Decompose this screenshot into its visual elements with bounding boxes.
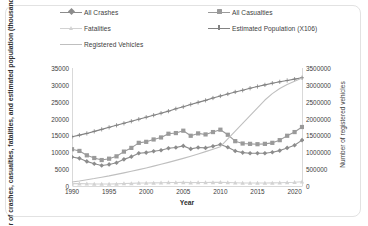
data-point (241, 88, 245, 92)
x-axis-ticks: 1990199520002005201020152020 (72, 188, 302, 200)
data-point (263, 142, 267, 146)
x-tick-5: 2015 (250, 188, 264, 195)
data-point (99, 163, 104, 168)
y-tick-left-7: 35000 (51, 65, 69, 72)
data-point (203, 98, 207, 102)
data-point (233, 139, 237, 143)
data-point (137, 141, 141, 145)
data-point (159, 148, 164, 153)
data-point (240, 150, 245, 155)
data-point (129, 119, 133, 123)
legend-marker-icon (60, 8, 82, 16)
data-point (211, 130, 215, 134)
data-point (144, 140, 148, 144)
data-point (77, 133, 81, 137)
data-point (189, 134, 193, 138)
data-point (174, 107, 178, 111)
legend-item-all-casualties[interactable]: All Casualties (208, 8, 273, 16)
data-point (196, 145, 201, 150)
x-axis-label: Year (72, 199, 302, 206)
y-tick-right-4: 2000000 (306, 115, 331, 122)
data-point (241, 141, 245, 145)
data-point (85, 131, 89, 135)
x-tick-3: 2005 (176, 188, 190, 195)
data-point (226, 92, 230, 96)
series-fatalities (72, 180, 304, 186)
data-point (107, 157, 111, 161)
y-tick-left-6: 30000 (51, 81, 69, 88)
data-point (72, 147, 74, 151)
x-tick-1: 1995 (102, 188, 116, 195)
series-line (72, 127, 302, 160)
data-point (129, 154, 134, 159)
data-point (144, 150, 149, 155)
data-point (181, 129, 185, 133)
data-point (152, 113, 156, 117)
data-point (278, 138, 282, 142)
data-point (188, 147, 193, 152)
x-tick-0: 1990 (65, 188, 79, 195)
y-axis-ticks-right: 0500000100000015000002000000250000030000… (306, 68, 352, 186)
y-tick-left-2: 10000 (51, 149, 69, 156)
data-point (85, 153, 89, 157)
legend-item-estimated-population-x106[interactable]: Estimated Population (X106) (208, 24, 317, 32)
data-point (270, 81, 274, 85)
data-point (263, 151, 268, 156)
data-point (77, 156, 82, 161)
legend-marker-icon (208, 8, 230, 16)
data-point (166, 132, 170, 136)
data-point (136, 151, 141, 156)
data-point (203, 146, 208, 151)
legend-label: Fatalities (84, 25, 111, 32)
data-point (122, 150, 126, 154)
data-point (277, 148, 282, 153)
y-tick-right-0: 0 (306, 183, 310, 190)
data-point (248, 86, 252, 90)
legend-item-fatalities[interactable]: Fatalities (60, 24, 111, 32)
data-point (270, 150, 275, 155)
legend-marker-icon (60, 24, 82, 32)
data-point (255, 142, 259, 146)
data-point (100, 127, 104, 131)
legend-item-all-crashes[interactable]: All Crashes (60, 8, 118, 16)
data-point (196, 131, 200, 135)
data-point (72, 135, 74, 139)
plot-area (72, 68, 302, 186)
chart-legend: All CrashesAll CasualtiesFatalitiesEstim… (60, 8, 345, 54)
data-point (248, 151, 253, 156)
data-point (85, 159, 90, 164)
data-point (129, 146, 133, 150)
data-point (159, 135, 163, 139)
data-point (137, 117, 141, 121)
x-tick-4: 2010 (213, 188, 227, 195)
legend-item-registered-vehicles[interactable]: Registered Vehicles (60, 40, 143, 48)
data-point (144, 115, 148, 119)
legend-marker-icon (60, 40, 82, 48)
series-registered-vehicles (72, 78, 302, 182)
series-line (72, 78, 302, 182)
data-point (122, 121, 126, 125)
data-point (248, 142, 252, 146)
chart-figure: All CrashesAll CasualtiesFatalitiesEstim… (0, 0, 368, 226)
data-point (263, 83, 267, 87)
y-axis-label-left: Number of crashes, casualties, fatalitie… (2, 56, 20, 188)
y-tick-right-6: 3000000 (306, 81, 331, 88)
y-tick-left-1: 5000 (55, 166, 69, 173)
data-point (218, 128, 222, 132)
data-point (114, 123, 118, 127)
legend-label: All Casualties (232, 9, 273, 16)
data-point (292, 130, 296, 134)
legend-label: Estimated Population (X106) (232, 25, 317, 32)
data-point (181, 105, 185, 109)
data-point (233, 90, 237, 94)
data-point (174, 145, 179, 150)
data-point (255, 151, 260, 156)
data-point (114, 160, 119, 165)
legend-label: All Crashes (84, 9, 118, 16)
data-point (152, 137, 156, 141)
data-point (114, 154, 118, 158)
data-point (211, 144, 216, 149)
data-point (151, 149, 156, 154)
series-line (72, 182, 302, 184)
data-point (226, 145, 231, 150)
